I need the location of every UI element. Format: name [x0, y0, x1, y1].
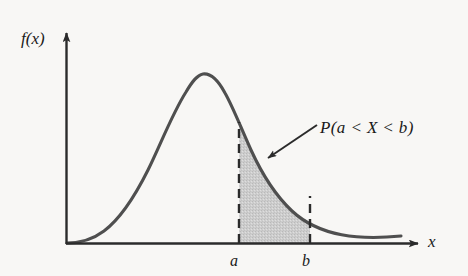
tick-label-a: a — [230, 252, 238, 269]
y-axis-label: f(x) — [21, 29, 45, 48]
figure-background — [0, 0, 468, 276]
tick-label-b: b — [302, 252, 310, 269]
x-axis-label: x — [427, 232, 436, 251]
probability-annotation-label: P(a < X < b) — [319, 118, 414, 137]
figure-canvas: f(x) x a b P(a < X < b) — [0, 0, 468, 276]
probability-density-figure: f(x) x a b P(a < X < b) — [0, 0, 468, 276]
